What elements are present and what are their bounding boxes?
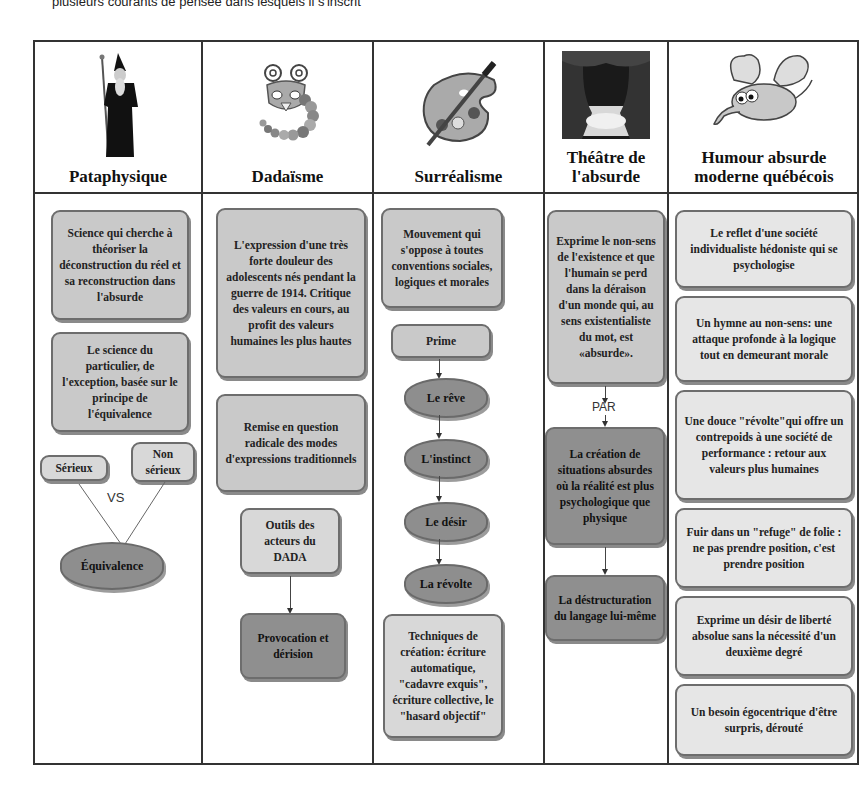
comparison-table: Pataphysique [33, 40, 859, 765]
column-title: Surréalisme [415, 167, 503, 186]
arrow-down-icon [439, 539, 440, 561]
prime-box: Prime [391, 324, 491, 358]
trait-box: Le reflet d'une société individualiste h… [675, 210, 853, 288]
vs-label: VS [107, 490, 124, 505]
arrow-down-icon [439, 359, 440, 375]
column-title: Humour absurde moderne québécois [679, 148, 849, 186]
definition-box: Exprime le non-sens de l'existence et qu… [547, 210, 665, 384]
definition-box: Le science du particulier, de l'exceptio… [51, 332, 189, 432]
header-humour-quebecois: Humour absurde moderne québécois [669, 42, 859, 192]
chain-cloud: L'instinct [404, 439, 488, 479]
definition-box: Mouvement qui s'oppose à toutes conventi… [381, 208, 503, 308]
chain-cloud: Le rêve [404, 378, 488, 418]
caterpillar-creature-icon [243, 55, 333, 155]
arrow-down-icon [605, 415, 606, 423]
trait-box: Fuir dans un "refuge" de folie : ne pas … [675, 508, 853, 588]
wizard-figure-icon [88, 47, 148, 162]
equivalence-cloud: Équivalence [60, 542, 164, 590]
paint-palette-icon [414, 55, 504, 155]
trait-box: Une douce "révolte"qui offre un contrepo… [675, 390, 853, 500]
result-box: La déstructuration du langage lui-même [545, 575, 665, 641]
column-title: Dadaïsme [252, 167, 324, 186]
chain-cloud: Le désir [404, 502, 488, 542]
arrow-down-icon [605, 547, 606, 571]
par-label: PAR [592, 400, 616, 414]
definition-box: Science qui cherche à théoriser la décon… [51, 210, 189, 320]
definition-box: Remise en question radicale des modes d'… [216, 394, 366, 492]
header-pataphysique: Pataphysique [35, 42, 201, 192]
arrow-down-icon [439, 415, 440, 435]
caption-text: plusieurs courants de pensée dans lesque… [52, 0, 361, 9]
arrow-down-icon [290, 576, 291, 610]
result-box: La création de situations absurdes où la… [545, 427, 665, 545]
arrow-down-icon [439, 476, 440, 498]
column-title: Pataphysique [69, 167, 167, 186]
techniques-box: Techniques de création: écriture automat… [383, 614, 503, 738]
header-dadaisme: Dadaïsme [203, 42, 372, 192]
theatre-curtain-icon [562, 51, 650, 139]
provocation-box: Provocation et dérision [240, 613, 346, 679]
trait-box: Exprime un désir de liberté absolue sans… [675, 596, 853, 676]
header-theatre-absurde: Théâtre de l'absurde [545, 42, 667, 192]
trait-box: Un besoin égocentrique d'être surpris, d… [675, 684, 853, 756]
vs-connector-lines [35, 472, 201, 552]
header-divider [35, 192, 857, 194]
column-title: Théâtre de l'absurde [556, 148, 656, 186]
connector-line [605, 386, 606, 400]
trait-box: Un hymne au non-sens: une attaque profon… [675, 296, 853, 382]
header-surrealisme: Surréalisme [374, 42, 543, 192]
tools-box: Outils des acteurs du DADA [240, 508, 340, 574]
definition-box: L'expression d'une très forte douleur de… [216, 208, 366, 378]
chain-cloud: La révolte [404, 564, 488, 604]
flying-elephant-icon [704, 50, 824, 140]
